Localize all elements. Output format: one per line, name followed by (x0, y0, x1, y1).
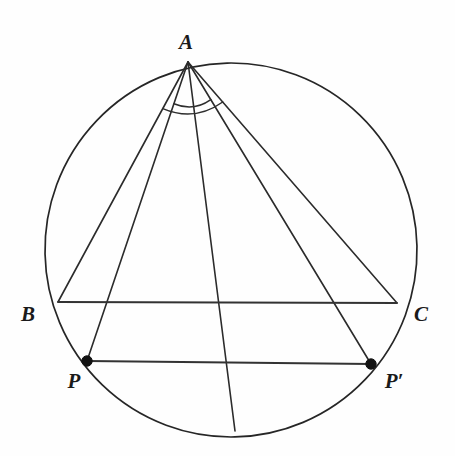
segment-ap (87, 62, 188, 361)
label-p: P (68, 371, 81, 392)
circumcircle (41, 59, 421, 441)
label-b: B (21, 304, 35, 325)
geometry-figure: A B C P P′ (0, 0, 455, 456)
point-marker-p-prime (366, 359, 376, 369)
segment-ac (188, 62, 397, 303)
label-p-prime: P′ (385, 371, 404, 392)
segment-a-midarc (188, 62, 235, 431)
label-c: C (414, 304, 428, 325)
point-marker-p (82, 356, 92, 366)
segment-bc (58, 302, 397, 303)
segment-pp-prime (87, 361, 371, 364)
label-a: A (179, 32, 193, 53)
